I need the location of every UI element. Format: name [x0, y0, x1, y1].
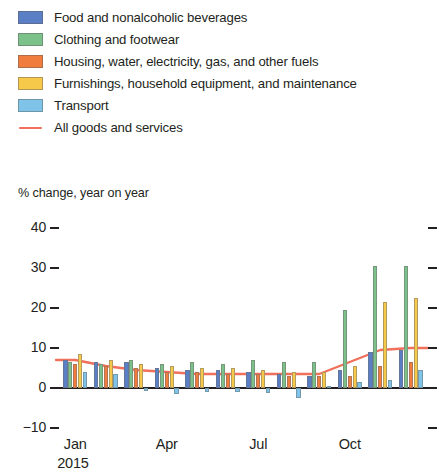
chart-bar	[317, 376, 321, 388]
y-axis-tick-label: 0	[12, 379, 46, 395]
chart-bar	[124, 362, 128, 388]
chart-bar	[235, 388, 239, 392]
chart-bar	[256, 374, 260, 388]
chart-bar	[277, 374, 281, 388]
chart-bar	[134, 368, 138, 388]
y-axis-tick-mark-right	[428, 267, 437, 269]
chart-bar	[251, 360, 255, 388]
chart-bar	[99, 364, 103, 388]
chart-bar	[200, 368, 204, 388]
chart-bar	[129, 360, 133, 388]
chart-bar	[312, 362, 316, 388]
chart-bar	[160, 364, 164, 388]
chart-bar	[378, 366, 382, 388]
y-axis-tick-label: 40	[12, 219, 46, 235]
y-axis-tick-mark	[50, 427, 59, 429]
chart-bar	[383, 302, 387, 388]
y-axis-tick-mark	[50, 227, 59, 229]
y-axis-tick-mark-right	[428, 347, 437, 349]
chart-bar	[185, 370, 189, 388]
x-axis-tick-label: Jan	[53, 436, 97, 452]
y-axis-tick-mark-right	[428, 307, 437, 309]
chart-bar	[216, 370, 220, 388]
chart-bar	[353, 366, 357, 388]
chart-bar	[414, 298, 418, 388]
chart-bar	[113, 374, 117, 388]
chart-bar	[226, 374, 230, 388]
chart-bar	[165, 372, 169, 388]
chart-bar	[327, 386, 331, 388]
chart-bar	[68, 362, 72, 388]
chart-bar	[155, 368, 159, 388]
chart-bar	[287, 376, 291, 388]
chart-bar	[63, 360, 67, 388]
y-axis-tick-label: 10	[12, 339, 46, 355]
all-goods-line-svg	[0, 0, 439, 475]
chart-bar	[221, 364, 225, 388]
y-axis-tick-mark	[50, 387, 59, 389]
y-axis-tick-label: −10	[12, 419, 46, 435]
chart-bar	[109, 360, 113, 388]
y-axis-tick-mark	[50, 347, 59, 349]
chart-bar	[83, 372, 87, 388]
y-axis-tick-mark	[50, 307, 59, 309]
chart-bar	[292, 372, 296, 388]
chart-bar	[174, 388, 178, 394]
chart-bar	[104, 366, 108, 388]
chart-bar	[296, 388, 300, 398]
chart-bar	[73, 364, 77, 388]
chart-bar	[343, 310, 347, 388]
chart-bar	[338, 370, 342, 388]
chart-bar	[282, 362, 286, 388]
x-axis-tick-label: Apr	[145, 436, 189, 452]
chart-bar	[205, 388, 209, 392]
y-axis-tick-label: 20	[12, 299, 46, 315]
chart-bar	[231, 368, 235, 388]
x-axis-year-label: 2015	[57, 455, 88, 471]
chart-bar	[170, 366, 174, 388]
chart-bar	[144, 388, 148, 391]
chart-bar	[368, 352, 372, 388]
chart-bar	[78, 354, 82, 388]
chart-bar	[195, 372, 199, 388]
y-axis-tick-mark-right	[428, 227, 437, 229]
chart-bar	[190, 362, 194, 388]
chart-bar	[261, 370, 265, 388]
chart-bar	[418, 370, 422, 388]
y-axis-tick-mark	[50, 267, 59, 269]
chart-bar	[139, 364, 143, 388]
x-axis-tick-label: Oct	[328, 436, 372, 452]
chart-bar	[373, 266, 377, 388]
chart-bar	[307, 376, 311, 388]
x-axis-tick-label: Jul	[236, 436, 280, 452]
chart-bar	[388, 380, 392, 388]
y-axis-tick-label: 30	[12, 259, 46, 275]
chart-bar	[94, 362, 98, 388]
chart-bar	[246, 372, 250, 388]
y-axis-tick-mark-right	[428, 387, 437, 389]
chart-bar	[322, 372, 326, 388]
chart-bar	[399, 350, 403, 388]
chart-bar	[409, 362, 413, 388]
chart-bar	[348, 376, 352, 388]
chart-plot-area: 403020100−10JanAprJulOct	[0, 0, 439, 475]
chart-bar	[404, 266, 408, 388]
chart-bar	[266, 388, 270, 393]
chart-bar	[357, 382, 361, 388]
y-axis-tick-mark-right	[428, 427, 437, 429]
